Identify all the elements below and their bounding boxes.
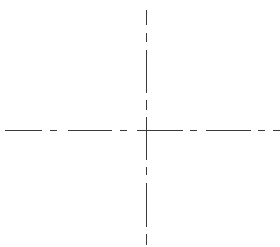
- crosshair-diagram: [0, 0, 280, 247]
